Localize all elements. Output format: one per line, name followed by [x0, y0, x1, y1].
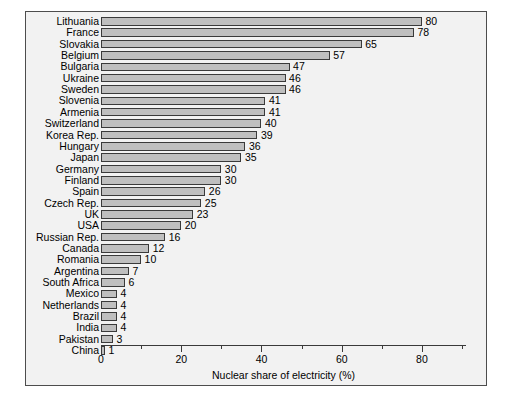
bar	[101, 290, 117, 299]
bar	[101, 165, 221, 174]
bar	[101, 131, 257, 140]
category-label: Japan	[0, 152, 99, 163]
x-tick-label: 20	[175, 353, 187, 365]
bar	[101, 74, 286, 83]
category-label: USA	[0, 220, 99, 231]
x-axis-line	[101, 345, 466, 346]
bar	[101, 51, 330, 60]
nuclear-share-bar-chart: Lithuania80France78Slovakia65Belgium57Bu…	[0, 0, 505, 411]
bar-value-label: 39	[261, 130, 273, 141]
bar-value-label: 57	[333, 50, 345, 61]
x-tick-label: 60	[336, 353, 348, 365]
bar	[101, 233, 165, 242]
bar-value-label: 26	[209, 186, 221, 197]
bar-value-label: 10	[145, 254, 157, 265]
bar	[101, 17, 422, 26]
x-tick-major	[422, 345, 423, 352]
x-tick-label: 80	[416, 353, 428, 365]
bar	[101, 28, 414, 37]
bar	[101, 119, 261, 128]
bar	[101, 187, 205, 196]
x-tick-label: 40	[256, 353, 268, 365]
bar	[101, 63, 290, 72]
bar	[101, 278, 125, 287]
bar-value-label: 78	[417, 27, 429, 38]
bar	[101, 312, 117, 321]
bar	[101, 301, 117, 310]
bar	[101, 199, 201, 208]
bar-value-label: 3	[117, 334, 123, 345]
bar-value-label: 40	[265, 118, 277, 129]
x-tick-major	[101, 345, 102, 352]
bar	[101, 142, 245, 151]
bar-value-label: 1	[109, 345, 115, 356]
x-tick-major	[181, 345, 182, 352]
bar	[101, 255, 141, 264]
bar-value-label: 16	[169, 232, 181, 243]
bar-value-label: 35	[245, 152, 257, 163]
x-tick-minor	[382, 345, 383, 349]
bar-value-label: 46	[289, 84, 301, 95]
bar	[101, 85, 286, 94]
bar-value-label: 6	[129, 277, 135, 288]
category-label: Romania	[0, 254, 99, 265]
bar-value-label: 20	[185, 220, 197, 231]
category-label: Spain	[0, 186, 99, 197]
bar-value-label: 23	[197, 209, 209, 220]
bar	[101, 267, 129, 276]
x-axis-label: Nuclear share of electricity (%)	[101, 369, 466, 381]
bar	[101, 108, 265, 117]
bar	[101, 210, 193, 219]
category-label: China	[0, 345, 99, 356]
bar-value-label: 65	[365, 39, 377, 50]
category-label: Switzerland	[0, 118, 99, 129]
bar	[101, 153, 241, 162]
category-label: France	[0, 27, 99, 38]
bar	[101, 40, 362, 49]
bar	[101, 176, 221, 185]
x-tick-minor	[462, 345, 463, 349]
x-tick-major	[261, 345, 262, 352]
x-tick-minor	[302, 345, 303, 349]
bar	[101, 97, 265, 106]
bar	[101, 324, 117, 333]
x-tick-minor	[141, 345, 142, 349]
bar	[101, 221, 181, 230]
bar	[101, 244, 149, 253]
x-tick-label: 0	[98, 353, 104, 365]
bar	[101, 335, 113, 344]
x-tick-major	[342, 345, 343, 352]
bar-value-label: 30	[225, 175, 237, 186]
x-tick-minor	[221, 345, 222, 349]
